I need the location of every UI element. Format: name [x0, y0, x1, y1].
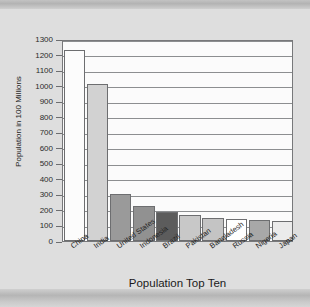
y-axis-tick-label: 1300: [27, 36, 53, 44]
y-axis-tick: [56, 55, 62, 56]
y-axis-title: Population in 100 Millions: [14, 52, 23, 192]
chart-page: Population in 100 Millions 0100200300400…: [0, 0, 310, 307]
x-axis-title: Population Top Ten: [62, 277, 293, 289]
page-top-band: [0, 0, 310, 9]
y-axis-tick: [56, 71, 62, 72]
y-axis-tick-labels: 0100200300400500600700800900100011001200…: [24, 40, 53, 242]
y-axis-tick-label: 0: [27, 238, 53, 246]
y-axis-tick-label: 1200: [27, 52, 53, 60]
y-axis-tick-label: 600: [27, 145, 53, 153]
y-axis-tick: [56, 195, 62, 196]
y-axis-tick: [56, 179, 62, 180]
y-axis-tick-label: 1000: [27, 83, 53, 91]
bar-china: [64, 50, 85, 241]
y-axis-tick-label: 100: [27, 222, 53, 230]
y-axis-tick: [56, 117, 62, 118]
bar-series: [63, 41, 292, 241]
bar-india: [87, 84, 108, 241]
y-axis-tick-label: 400: [27, 176, 53, 184]
y-axis-tick-label: 900: [27, 98, 53, 106]
y-axis-tick: [56, 86, 62, 87]
y-axis-tick: [56, 148, 62, 149]
chart-canvas: Population in 100 Millions 0100200300400…: [0, 9, 310, 289]
y-axis-tick: [56, 210, 62, 211]
y-axis-tick: [56, 40, 62, 41]
y-axis-tick-label: 700: [27, 129, 53, 137]
y-axis-tick-label: 200: [27, 207, 53, 215]
y-axis-tick-label: 800: [27, 114, 53, 122]
page-bottom-band: [0, 289, 310, 307]
y-axis-tick: [56, 133, 62, 134]
y-axis-tick: [56, 164, 62, 165]
y-axis-tick: [56, 102, 62, 103]
y-axis-tick: [56, 226, 62, 227]
y-axis-tick: [56, 242, 62, 243]
y-axis-tick-label: 500: [27, 160, 53, 168]
y-axis-tick-label: 1100: [27, 67, 53, 75]
y-axis-tick-label: 300: [27, 191, 53, 199]
plot-area: [62, 40, 293, 242]
